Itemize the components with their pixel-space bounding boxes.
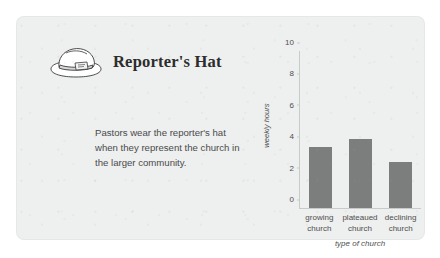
y-axis-tick: 8 bbox=[290, 69, 300, 78]
reporters-hat-icon bbox=[45, 45, 107, 81]
chart-bar bbox=[349, 139, 372, 208]
x-axis-tick-labels: growingchurchplateauedchurchdecliningchu… bbox=[299, 213, 421, 234]
bar-slot bbox=[340, 51, 380, 208]
y-axis-tick: 4 bbox=[290, 132, 300, 141]
screenshot-root: Reporter's Hat Pastors wear the reporter… bbox=[0, 0, 440, 258]
chart-bar bbox=[309, 147, 332, 208]
y-axis-tick: 0 bbox=[290, 195, 300, 204]
y-axis-title: weekly hours bbox=[262, 91, 271, 161]
x-axis-title: type of church bbox=[299, 239, 421, 248]
y-axis-tick: 2 bbox=[290, 163, 300, 172]
callout-header: Reporter's Hat bbox=[45, 45, 222, 81]
bar-slot bbox=[381, 51, 421, 208]
y-axis-tick: 10 bbox=[285, 38, 300, 47]
callout-body-text: Pastors wear the reporter's hat when the… bbox=[95, 125, 247, 171]
bar-slot bbox=[300, 51, 340, 208]
callout-body-paragraph: Pastors wear the reporter's hat when the… bbox=[95, 125, 247, 171]
callout-title: Reporter's Hat bbox=[113, 52, 222, 74]
chart-plot-area: 1086420 bbox=[299, 51, 421, 209]
reporters-hat-callout-panel: Reporter's Hat Pastors wear the reporter… bbox=[17, 17, 424, 239]
chart-bars bbox=[300, 51, 421, 208]
bar-chart: weekly hours 1086420 growingchurchplatea… bbox=[253, 45, 431, 245]
x-axis-tick-label: plateauedchurch bbox=[340, 213, 381, 234]
y-axis-tick: 6 bbox=[290, 100, 300, 109]
x-axis-tick-label: growingchurch bbox=[299, 213, 340, 234]
reporters-hat-icon-svg bbox=[45, 45, 107, 81]
chart-bar bbox=[389, 162, 412, 208]
x-axis-tick-label: decliningchurch bbox=[380, 213, 421, 234]
